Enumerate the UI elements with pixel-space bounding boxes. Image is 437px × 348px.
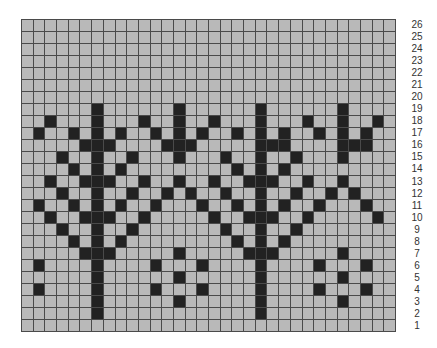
stitch-cell [326, 164, 337, 175]
stitch-cell [174, 68, 185, 79]
stitch-cell-filled [256, 104, 267, 115]
stitch-cell [373, 104, 384, 115]
row-label: 19 [397, 103, 433, 115]
stitch-cell [256, 68, 267, 79]
stitch-cell [197, 80, 208, 91]
stitch-cell [34, 272, 45, 283]
stitch-cell [279, 284, 290, 295]
stitch-cell [197, 44, 208, 55]
stitch-cell [361, 212, 372, 223]
stitch-cell [232, 308, 243, 319]
stitch-cell [303, 128, 314, 139]
stitch-cell [384, 296, 395, 307]
stitch-cell [373, 320, 384, 331]
stitch-cell [373, 68, 384, 79]
stitch-cell [127, 200, 138, 211]
stitch-cell [162, 128, 173, 139]
stitch-cell [139, 92, 150, 103]
stitch-cell [291, 80, 302, 91]
stitch-cell [267, 152, 278, 163]
stitch-cell [57, 140, 68, 151]
stitch-cell-filled [361, 128, 372, 139]
stitch-cell [373, 128, 384, 139]
stitch-cell [303, 248, 314, 259]
stitch-cell [303, 104, 314, 115]
stitch-cell [174, 320, 185, 331]
row-label: 24 [397, 43, 433, 55]
stitch-cell [186, 212, 197, 223]
stitch-cell [151, 140, 162, 151]
stitch-cell-filled [314, 260, 325, 271]
stitch-cell [338, 56, 349, 67]
stitch-cell [232, 68, 243, 79]
stitch-cell [384, 128, 395, 139]
stitch-cell [221, 200, 232, 211]
stitch-cell-filled [174, 116, 185, 127]
stitch-cell [232, 224, 243, 235]
stitch-cell-filled [349, 188, 360, 199]
stitch-cell [22, 80, 33, 91]
stitch-cell [384, 188, 395, 199]
stitch-cell [256, 56, 267, 67]
stitch-cell [34, 20, 45, 31]
stitch-cell [22, 212, 33, 223]
stitch-cell [326, 248, 337, 259]
stitch-cell [303, 80, 314, 91]
stitch-cell [267, 320, 278, 331]
stitch-cell [384, 320, 395, 331]
stitch-cell [221, 104, 232, 115]
stitch-cell [338, 224, 349, 235]
stitch-cell [57, 200, 68, 211]
stitch-cell [80, 32, 91, 43]
stitch-cell [244, 140, 255, 151]
stitch-cell-filled [338, 140, 349, 151]
stitch-cell [349, 176, 360, 187]
stitch-cell [303, 320, 314, 331]
stitch-cell [209, 248, 220, 259]
stitch-cell [326, 116, 337, 127]
stitch-cell [326, 68, 337, 79]
stitch-cell [338, 80, 349, 91]
stitch-cell [186, 308, 197, 319]
stitch-cell [291, 308, 302, 319]
stitch-cell [34, 248, 45, 259]
stitch-cell [57, 272, 68, 283]
stitch-cell [127, 68, 138, 79]
stitch-cell [116, 212, 127, 223]
stitch-cell [162, 236, 173, 247]
stitch-cell [373, 20, 384, 31]
stitch-cell-filled [221, 152, 232, 163]
stitch-cell [279, 92, 290, 103]
stitch-cell [104, 164, 115, 175]
stitch-cell [186, 128, 197, 139]
stitch-cell [127, 296, 138, 307]
stitch-cell [80, 188, 91, 199]
stitch-cell [326, 308, 337, 319]
stitch-cell [291, 20, 302, 31]
stitch-cell [80, 296, 91, 307]
stitch-cell [174, 44, 185, 55]
stitch-cell [174, 56, 185, 67]
stitch-cell [104, 260, 115, 271]
stitch-cell-filled [267, 176, 278, 187]
stitch-cell [139, 320, 150, 331]
stitch-cell [361, 104, 372, 115]
stitch-cell [197, 152, 208, 163]
stitch-cell [34, 296, 45, 307]
stitch-cell [314, 320, 325, 331]
stitch-cell [162, 212, 173, 223]
stitch-cell [256, 44, 267, 55]
stitch-cell [34, 212, 45, 223]
stitch-cell [221, 116, 232, 127]
stitch-cell [314, 308, 325, 319]
stitch-cell [22, 224, 33, 235]
stitch-cell [80, 320, 91, 331]
stitch-cell [151, 236, 162, 247]
stitch-cell [303, 260, 314, 271]
stitch-cell [349, 320, 360, 331]
stitch-cell-filled [256, 260, 267, 271]
stitch-cell [232, 104, 243, 115]
stitch-cell [104, 320, 115, 331]
stitch-cell-filled [151, 284, 162, 295]
stitch-cell-filled [139, 176, 150, 187]
